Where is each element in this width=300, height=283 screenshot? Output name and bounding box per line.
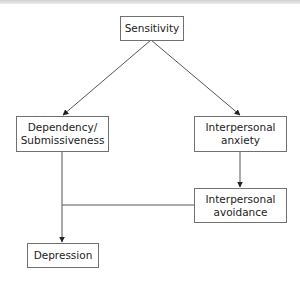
node-label-line2: Submissiveness: [21, 134, 105, 147]
node-depression: Depression: [27, 243, 99, 268]
node-label: Depression: [34, 249, 93, 262]
node-label-line1: Interpersonal: [206, 193, 276, 206]
edge-sensitivity-anxiety: [151, 40, 240, 115]
node-label: Sensitivity: [125, 22, 180, 35]
node-interpersonal-avoidance: Interpersonal avoidance: [194, 188, 287, 223]
node-label-line1: Interpersonal: [206, 121, 276, 134]
node-label-line2: anxiety: [221, 134, 260, 147]
node-label-line2: avoidance: [214, 206, 268, 219]
node-interpersonal-anxiety: Interpersonal anxiety: [194, 116, 287, 152]
node-sensitivity: Sensitivity: [120, 16, 184, 41]
node-label-line1: Dependency/: [28, 121, 98, 134]
edge-sensitivity-dependency: [63, 40, 151, 115]
node-dependency-submissiveness: Dependency/ Submissiveness: [16, 116, 109, 152]
